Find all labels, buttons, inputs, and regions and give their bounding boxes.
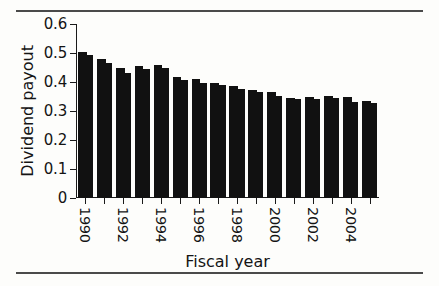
x-axis-tick bbox=[294, 198, 295, 204]
x-axis-title: Fiscal year bbox=[76, 252, 379, 271]
bar bbox=[314, 99, 321, 198]
x-axis-tick-label: 2000 bbox=[267, 207, 283, 243]
y-axis-tick-label: 0.6 bbox=[44, 15, 67, 33]
chart-figure: Dividend payout 00.10.20.30.40.50.619901… bbox=[0, 0, 439, 286]
x-axis-tick-label: 2004 bbox=[343, 207, 359, 243]
x-axis-tick bbox=[180, 198, 181, 204]
x-axis-tick bbox=[370, 198, 371, 204]
bar-group bbox=[343, 24, 358, 198]
bar-group bbox=[305, 24, 320, 198]
bar-group bbox=[173, 24, 188, 198]
bar-group bbox=[135, 24, 150, 198]
bar-group bbox=[267, 24, 282, 198]
bar bbox=[343, 97, 352, 198]
x-axis-tick-label: 1994 bbox=[153, 207, 169, 243]
y-axis-tick bbox=[70, 140, 76, 141]
bar bbox=[78, 52, 87, 198]
bar bbox=[173, 77, 182, 199]
y-axis-tick bbox=[70, 111, 76, 112]
plot-area: 00.10.20.30.40.50.6199019921994199619982… bbox=[76, 24, 379, 198]
bar bbox=[162, 68, 169, 198]
bottom-divider-rule bbox=[16, 272, 423, 274]
y-axis-title-text: Dividend payout bbox=[18, 45, 37, 177]
bar bbox=[286, 98, 295, 198]
x-axis-tick bbox=[332, 198, 333, 204]
y-axis-title: Dividend payout bbox=[16, 24, 38, 198]
bar bbox=[362, 101, 371, 198]
bar bbox=[267, 92, 276, 198]
x-axis-tick bbox=[256, 198, 257, 204]
bar-group bbox=[229, 24, 244, 198]
x-axis-tick bbox=[123, 198, 124, 204]
bar bbox=[200, 83, 207, 198]
bar bbox=[192, 79, 201, 198]
bar-group bbox=[97, 24, 112, 198]
x-axis-tick bbox=[199, 198, 200, 204]
bar-group bbox=[324, 24, 339, 198]
x-axis-tick bbox=[104, 198, 105, 204]
bar bbox=[257, 92, 264, 198]
bar bbox=[105, 63, 112, 198]
bar-group bbox=[362, 24, 377, 198]
x-axis-tick bbox=[237, 198, 238, 204]
x-axis-tick bbox=[275, 198, 276, 204]
bar-group bbox=[192, 24, 207, 198]
bar bbox=[124, 73, 131, 198]
bar bbox=[295, 99, 302, 198]
bar bbox=[370, 103, 377, 198]
bar bbox=[154, 65, 163, 198]
bar bbox=[143, 69, 150, 198]
bar-group bbox=[78, 24, 93, 198]
bar bbox=[181, 80, 188, 198]
x-axis-tick bbox=[313, 198, 314, 204]
y-axis-tick-label: 0 bbox=[58, 189, 67, 207]
x-axis-tick-label: 2002 bbox=[305, 207, 321, 243]
y-axis-tick bbox=[70, 53, 76, 54]
x-axis-tick-label: 1992 bbox=[115, 207, 131, 243]
y-axis-tick-label: 0.5 bbox=[44, 44, 67, 62]
x-axis-tick bbox=[142, 198, 143, 204]
bar bbox=[135, 66, 144, 198]
bar bbox=[324, 96, 333, 198]
x-axis-tick bbox=[85, 198, 86, 204]
bar-group bbox=[210, 24, 225, 198]
x-axis-tick-label: 1998 bbox=[229, 207, 245, 243]
y-axis-tick-label: 0.4 bbox=[44, 73, 67, 91]
x-axis-tick-label: 1990 bbox=[77, 207, 93, 243]
bar bbox=[229, 86, 238, 198]
bar bbox=[248, 90, 257, 198]
bar bbox=[238, 89, 245, 198]
bar bbox=[333, 98, 340, 198]
y-axis-line bbox=[76, 24, 77, 198]
y-axis-tick-label: 0.3 bbox=[44, 102, 67, 120]
x-axis-tick bbox=[161, 198, 162, 204]
bar-group bbox=[286, 24, 301, 198]
bar bbox=[97, 59, 106, 198]
bar-group bbox=[248, 24, 263, 198]
y-axis-tick bbox=[70, 198, 76, 199]
y-axis-tick-label: 0.1 bbox=[44, 160, 67, 178]
bar bbox=[305, 97, 314, 198]
y-axis-tick bbox=[70, 169, 76, 170]
bar bbox=[276, 96, 283, 198]
top-divider-rule bbox=[16, 10, 423, 12]
y-axis-tick bbox=[70, 82, 76, 83]
bar bbox=[116, 68, 125, 198]
bar-group bbox=[116, 24, 131, 198]
y-axis-tick-label: 0.2 bbox=[44, 131, 67, 149]
bar bbox=[210, 83, 219, 198]
y-axis-tick bbox=[70, 24, 76, 25]
bar-group bbox=[154, 24, 169, 198]
x-axis-tick bbox=[218, 198, 219, 204]
x-axis-tick bbox=[351, 198, 352, 204]
x-axis-tick-label: 1996 bbox=[191, 207, 207, 243]
bar bbox=[351, 102, 358, 198]
bar bbox=[86, 55, 93, 198]
bar bbox=[219, 85, 226, 198]
